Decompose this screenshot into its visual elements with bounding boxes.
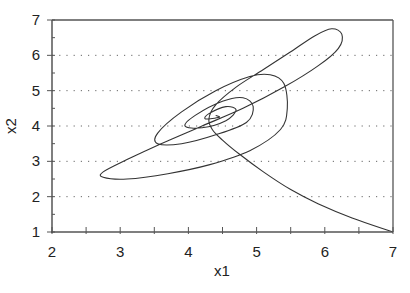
- x-tick-label: 4: [184, 243, 192, 260]
- gridlines: [52, 55, 393, 196]
- y-tick-label: 2: [32, 188, 40, 205]
- trajectory-curve: [100, 29, 393, 232]
- y-tick-label: 3: [32, 152, 40, 169]
- x-tick-label: 3: [116, 243, 124, 260]
- phase-plot: 234567 1234567 x1 x2: [0, 0, 410, 293]
- y-tick-label: 4: [32, 117, 40, 134]
- plot-frame: [51, 20, 393, 233]
- x-tick-label: 2: [48, 243, 56, 260]
- x-axis-title: x1: [214, 262, 230, 279]
- y-tick-label: 5: [32, 82, 40, 99]
- y-axis-title: x2: [2, 118, 19, 134]
- y-tick-label: 1: [32, 223, 40, 240]
- x-tick-label: 5: [252, 243, 260, 260]
- y-tick-label: 6: [32, 46, 40, 63]
- x-tick-label: 6: [321, 243, 329, 260]
- x-tick-label: 7: [389, 243, 397, 260]
- y-tick-label: 7: [32, 11, 40, 28]
- trajectory-layer: [100, 29, 393, 232]
